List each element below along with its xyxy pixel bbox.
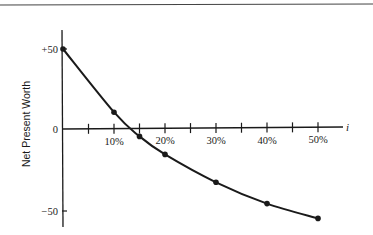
y-tick-label: +50 (42, 44, 58, 55)
top-rule (0, 4, 373, 5)
data-point (315, 216, 321, 222)
data-point (213, 180, 219, 186)
y-axis-title: Net Present Worth (20, 81, 32, 167)
npw-chart: 10%20%30%40%50% +500−50 i Net Present Wo… (0, 0, 373, 235)
x-axis-label: i (346, 121, 349, 133)
data-point (60, 46, 66, 52)
y-axis-tick-labels: +500−50 (42, 44, 58, 217)
data-point (264, 201, 270, 207)
y-tick-label: 0 (53, 124, 58, 135)
data-point (137, 134, 143, 140)
data-point (111, 109, 117, 115)
x-axis (62, 127, 343, 129)
data-point (162, 152, 168, 158)
x-tick-label: 50% (308, 134, 328, 145)
npw-curve (63, 49, 318, 218)
x-tick-label: 30% (206, 135, 226, 146)
data-point-markers (60, 46, 321, 221)
chart-canvas: 10%20%30%40%50% +500−50 i Net Present Wo… (0, 0, 373, 235)
x-tick-label: 40% (257, 135, 277, 146)
x-tick-label: 10% (104, 136, 124, 147)
y-tick-label: −50 (42, 206, 58, 217)
x-tick-label: 20% (155, 135, 175, 146)
